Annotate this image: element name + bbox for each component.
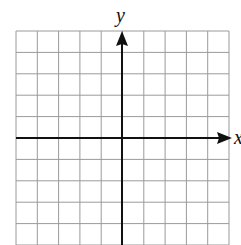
y-axis-arrow-icon — [116, 31, 128, 46]
coordinate-plane — [0, 0, 241, 245]
y-axis-label: y — [116, 5, 125, 25]
x-axis-arrow-icon — [217, 132, 232, 144]
x-axis-label: x — [234, 127, 241, 147]
x-axis — [16, 132, 232, 144]
